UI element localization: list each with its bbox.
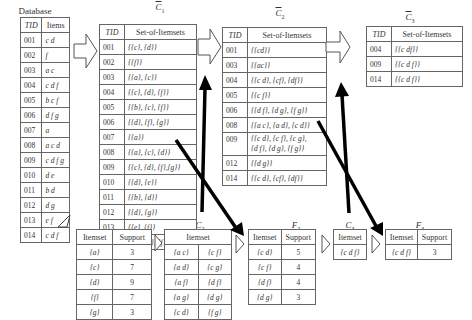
table-row: {a d}{c g}	[165, 260, 232, 275]
table-row: 005{{b}, {c}, {f}}	[100, 100, 197, 115]
database-title: Database	[5, 6, 65, 16]
table-row: 002f	[21, 48, 70, 63]
f1-table: ItemsetSupport {a}3 {c}7 {d}9 {f}7 {g}3	[76, 229, 152, 320]
table-row: 003{{ac}}	[223, 58, 327, 73]
header-items: Items	[42, 18, 70, 33]
cbar1-table: TIDSet-of-Itemsets 001{{c}, {d}} 002{{f}…	[99, 24, 197, 250]
header-tid: TID	[21, 18, 42, 33]
cbar2-title: C2	[250, 8, 310, 20]
table-row: {c d f}	[334, 245, 367, 260]
cbar1-title: C1	[130, 2, 190, 14]
table-row: 005{{c f}}	[223, 88, 327, 103]
table-row: {c d f}3	[386, 245, 452, 260]
table-row: 011b d	[21, 183, 70, 198]
table-row: 010{{d}, {e}}	[100, 175, 197, 190]
table-row: 014{{c d}, {cf}, {df}}	[223, 171, 327, 186]
table-row: 009c d f g	[21, 153, 70, 168]
table-row: 008a c d	[21, 138, 70, 153]
table-row: 012{{d g}}	[223, 156, 327, 171]
table-row: 006{{d f}, {d g}, {f g}}	[223, 103, 327, 118]
table-row: 006{{d}, {f}, {g}}	[100, 115, 197, 130]
table-row: 001{{c}, {d}}	[100, 40, 197, 55]
table-row: {f}7	[77, 290, 152, 305]
table-row: {a g}{d g}	[165, 290, 232, 305]
table-row: {a}3	[77, 245, 152, 260]
table-row: 007a	[21, 123, 70, 138]
f3-table: ItemsetSupport {c d f}3	[385, 229, 452, 260]
table-row: {c}7	[77, 260, 152, 275]
table-row: {d}9	[77, 275, 152, 290]
table-row: 002{{f}}	[100, 55, 197, 70]
table-row: {c d}{f g}	[165, 305, 232, 320]
cbar2-table: TIDSet-of-Itemsets 001{{cd}} 003{{ac}} 0…	[222, 27, 327, 186]
cbar3-title: C3	[380, 12, 440, 24]
table-row: 007{{a}}	[100, 130, 197, 145]
table-row: 014c d f	[21, 228, 70, 243]
table-row: 010d e	[21, 168, 70, 183]
table-row: 013e f	[21, 213, 70, 228]
table-row: 004{{c d}, {cf}, {df}}	[223, 73, 327, 88]
table-row: 014{{c d f}}	[367, 72, 463, 87]
cbar3-table: TIDSet-of-Itemsets 004{{c df}} 009{{c d …	[366, 26, 463, 87]
f2-table: ItemsetSupport {c d}5 {c f}4 {d f}4 {d g…	[248, 229, 316, 305]
table-row: {g}3	[77, 305, 152, 320]
table-row: 008{{a c}, {a d}, {c d}}	[223, 118, 327, 133]
table-row: 004{{c}, {d}, {f}}	[100, 85, 197, 100]
table-row: 003{{a}, {c}}	[100, 70, 197, 85]
table-row: 003a c	[21, 63, 70, 78]
table-row: {c f}4	[249, 260, 316, 275]
c2-table: Itemset {a c}{c f} {a d}{c g} {a f}{d f}…	[164, 229, 232, 320]
table-row: 011{{b}, {d}}	[100, 190, 197, 205]
table-row: 012d g	[21, 198, 70, 213]
c3-table: Itemset {c d f}	[333, 229, 367, 260]
table-row: 009{{c}, {d}, {f},{g}}	[100, 160, 197, 175]
table-row: {c d}5	[249, 245, 316, 260]
table-row: 005b c f	[21, 93, 70, 108]
table-row: 008{{a}, {c}, {d}}	[100, 145, 197, 160]
table-row: 004{{c df}}	[367, 42, 463, 57]
table-row: {d f}4	[249, 275, 316, 290]
table-row: {d g}3	[249, 290, 316, 305]
table-row: 012{{d}, {g}}	[100, 205, 197, 220]
database-table: TIDItems 001c d 002f 003a c 004c d f 005…	[20, 17, 70, 243]
table-row: 001c d	[21, 33, 70, 48]
table-row: 009{{c d}, {c f}, {c g},{d f}, {d g}, {f…	[223, 133, 327, 156]
table-row: 001{{cd}}	[223, 43, 327, 58]
table-row: 009{{c d f}}	[367, 57, 463, 72]
table-row: 004c d f	[21, 78, 70, 93]
table-row: {a f}{d f}	[165, 275, 232, 290]
table-row: {a c}{c f}	[165, 245, 232, 260]
table-row: 006d f g	[21, 108, 70, 123]
